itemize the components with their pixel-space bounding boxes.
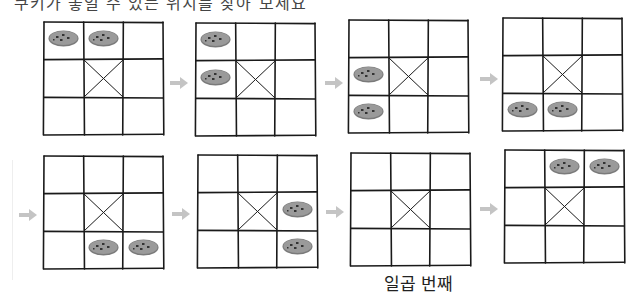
arrow-right-icon <box>325 74 343 86</box>
arrow-right-icon <box>170 74 188 86</box>
cookie-icon <box>88 30 119 47</box>
grid-step-3 <box>349 20 468 133</box>
grid-step-5 <box>44 156 163 269</box>
step-caption: 일곱 번째 <box>384 270 453 295</box>
cookie-icon <box>353 103 384 120</box>
tic-grid <box>351 153 470 266</box>
cookie-icon <box>507 101 538 118</box>
cookie-icon <box>128 239 159 256</box>
cookie-icon <box>200 69 231 86</box>
grid-step-2 <box>196 23 315 136</box>
grid-step-7 <box>351 153 470 266</box>
cookie-icon <box>549 158 580 175</box>
arrow-right-icon <box>480 70 498 82</box>
cookie-icon <box>282 238 313 255</box>
arrow-right-icon <box>480 200 498 212</box>
arrow-right-icon <box>172 205 190 217</box>
cookie-icon <box>589 158 620 175</box>
cookie-icon <box>547 101 578 118</box>
arrow-right-icon <box>326 203 344 215</box>
cookie-icon <box>282 201 313 218</box>
cookie-icon <box>88 239 119 256</box>
cookie-icon <box>200 31 231 48</box>
grid-step-1 <box>44 22 163 135</box>
grid-step-4 <box>503 18 622 131</box>
grid-step-8 <box>505 150 624 263</box>
instruction-text: 쿠키가 놓일 수 있는 위치를 찾아 보세요 <box>14 0 307 14</box>
grid-step-6 <box>198 155 317 268</box>
cookie-icon <box>48 30 79 47</box>
cookie-icon <box>353 66 384 83</box>
page-divider <box>12 160 13 280</box>
arrow-right-icon <box>19 206 37 218</box>
